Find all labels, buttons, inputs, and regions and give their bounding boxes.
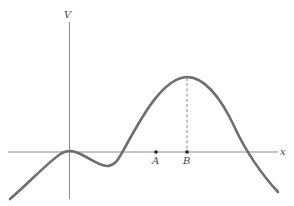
potential-curve	[10, 77, 278, 199]
point-b-label: B	[182, 155, 190, 166]
v-axis-label: V	[64, 9, 73, 20]
point-a-label: A	[151, 155, 159, 166]
potential-energy-diagram: A B V x	[0, 0, 294, 206]
x-axis-label: x	[280, 146, 286, 157]
point-b-marker	[185, 150, 189, 154]
point-a-marker	[154, 150, 158, 154]
